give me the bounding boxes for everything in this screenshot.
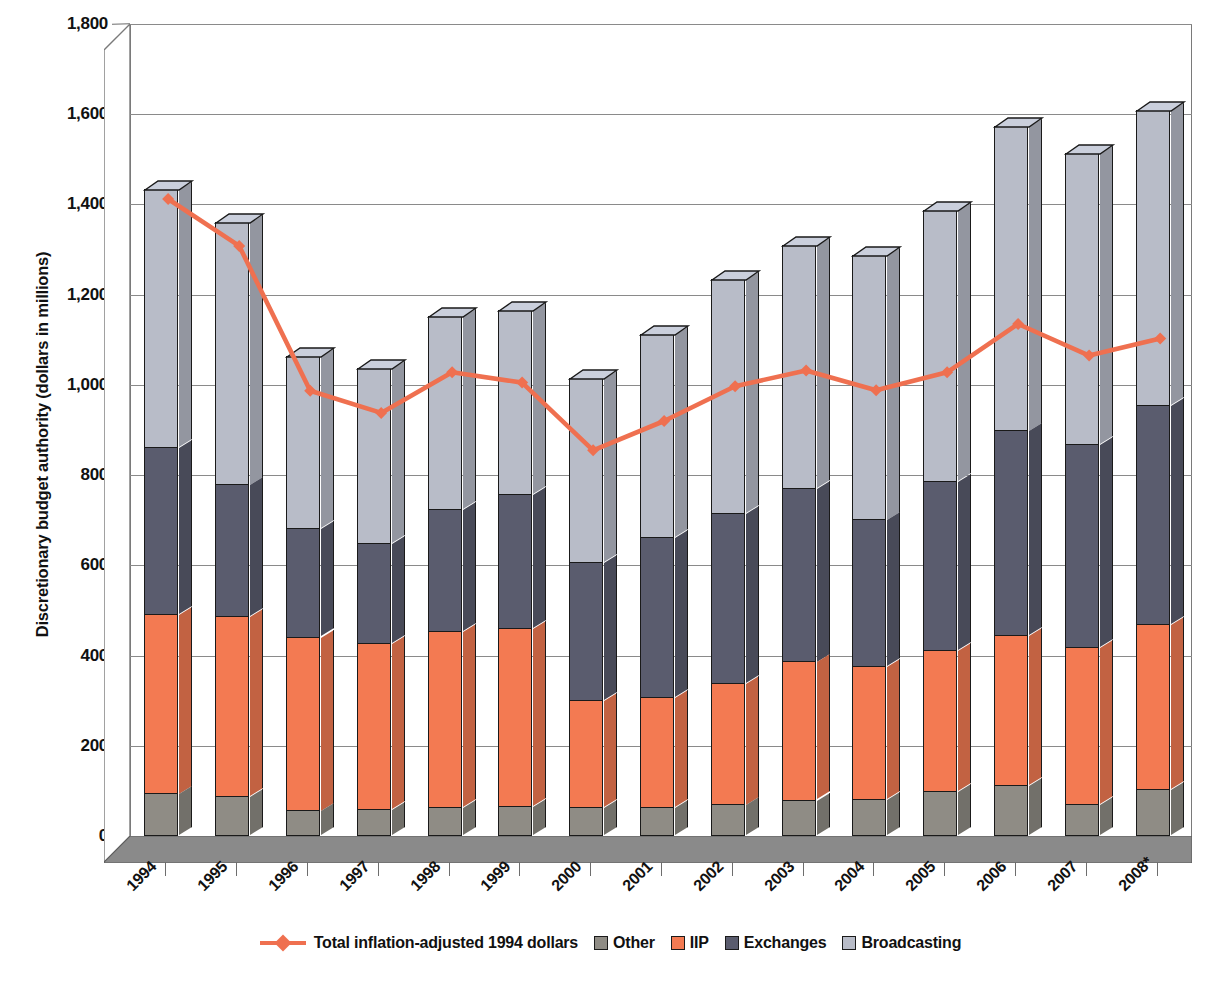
bar-segment-other[interactable] <box>994 785 1028 836</box>
bar-top-cap <box>1137 102 1171 111</box>
bar-segment-other[interactable] <box>428 807 462 836</box>
bar-segment-side-face <box>392 636 405 809</box>
bar-segment-other[interactable] <box>286 810 320 836</box>
bar-segment-broadcasting[interactable] <box>357 368 391 543</box>
bar-column[interactable] <box>923 210 957 836</box>
bar-segment-broadcasting[interactable] <box>852 255 886 520</box>
x-axis-tick <box>661 862 662 876</box>
bar-segment-exchanges[interactable] <box>215 484 249 616</box>
bar-segment-exchanges[interactable] <box>144 447 178 614</box>
bar-segment-broadcasting[interactable] <box>711 279 745 513</box>
bar-segment-other[interactable] <box>640 807 674 836</box>
bar-segment-side-face <box>179 607 192 794</box>
bar-segment-broadcasting[interactable] <box>1136 110 1170 405</box>
bar-segment-iip[interactable] <box>357 643 391 809</box>
bar-segment-iip[interactable] <box>923 650 957 791</box>
bar-segment-exchanges[interactable] <box>852 519 886 666</box>
bar-segment-broadcasting[interactable] <box>286 356 320 528</box>
bar-segment-broadcasting[interactable] <box>569 378 603 562</box>
bar-segment-other[interactable] <box>144 793 178 836</box>
x-axis-tick <box>1086 862 1087 876</box>
bar-segment-iip[interactable] <box>215 616 249 796</box>
bar-segment-iip[interactable] <box>782 661 816 799</box>
bar-top-cap <box>853 247 887 256</box>
bar-segment-iip[interactable] <box>1065 647 1099 804</box>
bar-segment-other[interactable] <box>215 796 249 836</box>
bar-segment-side-face <box>1029 628 1042 785</box>
legend-item[interactable]: Other <box>594 934 655 952</box>
bar-segment-other[interactable] <box>357 809 391 836</box>
bar-segment-exchanges[interactable] <box>1136 405 1170 624</box>
bar-segment-exchanges[interactable] <box>428 509 462 631</box>
bar-segment-exchanges[interactable] <box>994 430 1028 635</box>
bar-column[interactable] <box>144 189 178 836</box>
bar-top-cap <box>499 302 533 311</box>
x-axis-tick <box>944 862 945 876</box>
bar-column[interactable] <box>428 316 462 836</box>
legend-item[interactable]: Broadcasting <box>842 934 961 952</box>
bar-segment-other[interactable] <box>498 806 532 836</box>
bar-segment-exchanges[interactable] <box>357 543 391 643</box>
bar-segment-exchanges[interactable] <box>782 488 816 662</box>
bar-column[interactable] <box>640 334 674 836</box>
bar-segment-exchanges[interactable] <box>711 513 745 683</box>
x-axis-tick <box>449 862 450 876</box>
bar-column[interactable] <box>1136 110 1170 836</box>
bar-column[interactable] <box>357 368 391 836</box>
bar-segment-exchanges[interactable] <box>569 562 603 700</box>
bar-column[interactable] <box>711 279 745 836</box>
y-axis-tick-label: 200 <box>22 736 108 756</box>
bar-segment-broadcasting[interactable] <box>640 334 674 537</box>
bar-segment-iip[interactable] <box>144 614 178 794</box>
legend-item[interactable]: IIP <box>671 934 709 952</box>
bar-segment-other[interactable] <box>711 804 745 836</box>
bar-segment-exchanges[interactable] <box>1065 444 1099 647</box>
bar-segment-broadcasting[interactable] <box>498 310 532 494</box>
bar-segment-iip[interactable] <box>428 631 462 807</box>
bar-segment-iip[interactable] <box>1136 624 1170 789</box>
bar-segment-exchanges[interactable] <box>286 528 320 636</box>
bar-segment-broadcasting[interactable] <box>144 189 178 447</box>
x-axis-tick <box>519 862 520 876</box>
bar-segment-iip[interactable] <box>569 700 603 807</box>
bar-segment-broadcasting[interactable] <box>994 126 1028 431</box>
bar-column[interactable] <box>1065 153 1099 836</box>
bar-column[interactable] <box>852 255 886 836</box>
bar-segment-side-face <box>392 536 405 643</box>
bar-segment-broadcasting[interactable] <box>782 245 816 488</box>
bar-segment-other[interactable] <box>1136 789 1170 836</box>
bar-segment-iip[interactable] <box>994 635 1028 785</box>
bar-segment-other[interactable] <box>569 807 603 836</box>
bar-column[interactable] <box>569 378 603 836</box>
bar-segment-other[interactable] <box>923 791 957 836</box>
bar-segment-broadcasting[interactable] <box>923 210 957 481</box>
bar-segment-iip[interactable] <box>711 683 745 805</box>
bar-segment-iip[interactable] <box>640 697 674 807</box>
bar-segment-exchanges[interactable] <box>923 481 957 650</box>
bar-segment-iip[interactable] <box>286 637 320 811</box>
bar-column[interactable] <box>782 245 816 836</box>
bar-column[interactable] <box>286 356 320 836</box>
bar-segment-broadcasting[interactable] <box>215 222 249 485</box>
bar-segment-other[interactable] <box>782 800 816 836</box>
bar-segment-exchanges[interactable] <box>640 537 674 697</box>
x-axis-tick-label: 2001 <box>619 858 656 895</box>
bar-column[interactable] <box>215 222 249 836</box>
bar-segment-iip[interactable] <box>498 628 532 806</box>
bar-segment-side-face <box>1029 118 1042 430</box>
legend-item[interactable]: Exchanges <box>725 934 827 952</box>
x-axis: 1994199519961997199819992000200120022003… <box>130 862 1192 932</box>
bar-segment-other[interactable] <box>852 799 886 836</box>
bar-segment-other[interactable] <box>1065 804 1099 836</box>
bar-segment-side-face <box>746 676 759 805</box>
legend-item[interactable]: Total inflation-adjusted 1994 dollars <box>260 934 578 952</box>
bar-segment-exchanges[interactable] <box>498 494 532 628</box>
bar-column[interactable] <box>498 310 532 836</box>
legend-label: Broadcasting <box>861 934 961 952</box>
bar-segment-broadcasting[interactable] <box>428 316 462 509</box>
bar-segment-side-face <box>1029 423 1042 635</box>
bar-segment-iip[interactable] <box>852 666 886 799</box>
bar-segment-broadcasting[interactable] <box>1065 153 1099 444</box>
bar-column[interactable] <box>994 126 1028 836</box>
bar-segment-side-face <box>463 309 476 509</box>
